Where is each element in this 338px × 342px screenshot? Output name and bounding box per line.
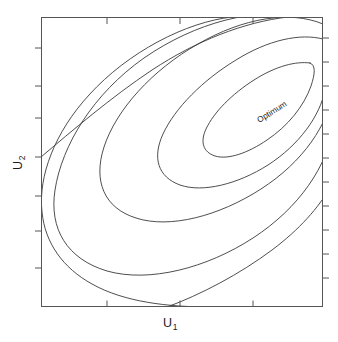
y-axis-title-subscript: 2 <box>17 156 27 161</box>
x-axis-title-subscript: 1 <box>173 322 178 332</box>
y-axis-title-text: U <box>11 161 25 170</box>
x-axis-title-text: U <box>163 316 172 330</box>
plot-background <box>42 18 323 307</box>
x-axis-title: U1 <box>163 316 177 330</box>
y-axis-ticks-right <box>323 38 329 278</box>
y-axis-ticks-left <box>35 48 41 268</box>
y-axis-title: U2 <box>11 156 25 170</box>
contour-plot-canvas <box>0 0 338 342</box>
contour-plot-figure: U1 U2 Optimum <box>0 0 338 342</box>
